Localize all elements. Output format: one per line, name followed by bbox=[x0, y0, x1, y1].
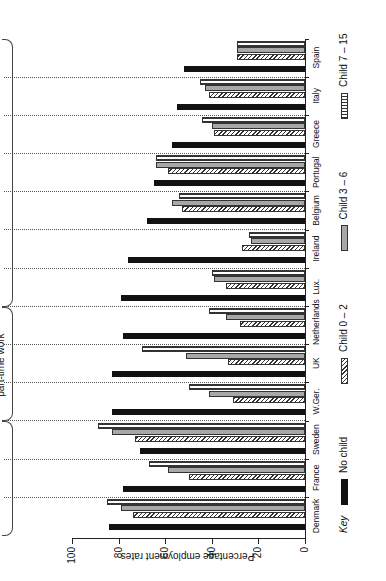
country-bar-group bbox=[0, 383, 305, 419]
group-separator bbox=[4, 191, 305, 192]
bar-child-7-15 bbox=[212, 270, 305, 276]
bar-child-7-15 bbox=[200, 79, 305, 85]
country-label: Netherlands bbox=[311, 305, 321, 345]
bar-no-child bbox=[112, 409, 305, 415]
y-tick bbox=[119, 539, 120, 544]
bar-child-7-15 bbox=[209, 308, 305, 314]
bar-child-0-2 bbox=[226, 283, 305, 289]
bar-no-child bbox=[128, 257, 305, 263]
y-tick bbox=[165, 539, 166, 544]
x-tick bbox=[305, 497, 309, 498]
x-tick bbox=[305, 382, 309, 383]
bar-child-3-6 bbox=[212, 124, 305, 130]
group-separator bbox=[4, 459, 305, 460]
bar-child-0-2 bbox=[228, 359, 305, 365]
group-brace bbox=[2, 39, 13, 306]
bar-child-0-2 bbox=[233, 397, 305, 403]
dotted-swatch-icon bbox=[341, 225, 348, 251]
group-separator bbox=[4, 382, 305, 383]
bar-child-0-2 bbox=[242, 245, 305, 251]
bar-child-0-2 bbox=[214, 130, 305, 136]
legend-item-child-3-6: Child 3 – 6 bbox=[338, 172, 349, 252]
group-separator bbox=[4, 77, 305, 78]
group-separator bbox=[4, 115, 305, 116]
x-tick bbox=[305, 115, 309, 116]
bar-child-7-15 bbox=[237, 41, 305, 47]
x-tick bbox=[305, 230, 309, 231]
country-bar-group bbox=[0, 460, 305, 496]
country-bar-group bbox=[0, 345, 305, 381]
bar-child-3-6 bbox=[172, 200, 305, 206]
x-tick bbox=[305, 39, 309, 40]
group-separator bbox=[4, 153, 305, 154]
bar-child-0-2 bbox=[189, 474, 306, 480]
group-separator bbox=[4, 229, 305, 230]
country-label: Ireland bbox=[311, 229, 321, 269]
country-bar-group bbox=[0, 231, 305, 267]
bar-no-child bbox=[177, 104, 305, 110]
group-separator bbox=[4, 497, 305, 498]
y-tick bbox=[305, 539, 306, 544]
x-tick bbox=[305, 153, 309, 154]
y-tick bbox=[258, 539, 259, 544]
bar-no-child bbox=[112, 371, 305, 377]
bar-no-child bbox=[184, 66, 305, 72]
country-bar-group bbox=[0, 78, 305, 114]
country-label: Italy bbox=[311, 76, 321, 116]
bar-child-7-15 bbox=[142, 346, 305, 352]
country-label: Denmark bbox=[311, 496, 321, 536]
country-bar-group bbox=[0, 40, 305, 76]
country-label: Lux. bbox=[311, 267, 321, 307]
y-tick bbox=[72, 539, 73, 544]
bar-child-3-6 bbox=[209, 391, 305, 397]
bar-no-child bbox=[121, 295, 305, 301]
stripe-swatch-icon bbox=[341, 93, 348, 119]
bar-no-child bbox=[123, 333, 305, 339]
legend-item-no-child: No child bbox=[338, 437, 349, 505]
bar-child-7-15 bbox=[202, 117, 305, 123]
x-tick bbox=[305, 306, 309, 307]
group-separator bbox=[4, 344, 305, 345]
bar-no-child bbox=[109, 524, 305, 530]
bar-child-7-15 bbox=[107, 499, 305, 505]
bar-child-3-6 bbox=[156, 162, 305, 168]
country-bar-group bbox=[0, 307, 305, 343]
country-bar-group bbox=[0, 269, 305, 305]
country-bar-group bbox=[0, 192, 305, 228]
chart-stage: 020406080100 Percentage employment rates… bbox=[0, 0, 386, 581]
legend: Key No child Child 0 – 2 Child 3 – 6 Chi… bbox=[338, 34, 349, 534]
bar-child-0-2 bbox=[133, 512, 305, 518]
bar-child-7-15 bbox=[189, 384, 306, 390]
x-tick bbox=[305, 421, 309, 422]
bar-child-7-15 bbox=[98, 423, 305, 429]
country-label: Spain bbox=[311, 38, 321, 78]
y-tick-label: 100 bbox=[66, 547, 77, 577]
country-label: Sweden bbox=[311, 420, 321, 460]
bar-child-3-6 bbox=[214, 276, 305, 282]
bar-no-child bbox=[172, 142, 305, 148]
bar-child-7-15 bbox=[149, 461, 305, 467]
country-label: Portugal bbox=[311, 152, 321, 192]
group-separator bbox=[4, 420, 305, 421]
group-label: GROUP 2Dual role with homemaker/part-tim… bbox=[0, 309, 6, 422]
country-label: UK bbox=[311, 343, 321, 383]
bar-child-0-2 bbox=[237, 54, 305, 60]
legend-item-child-7-15: Child 7 – 15 bbox=[338, 34, 349, 119]
group-brace bbox=[2, 421, 13, 536]
group-separator bbox=[4, 268, 305, 269]
bar-no-child bbox=[140, 448, 305, 454]
solid-swatch-icon bbox=[341, 479, 348, 505]
bar-child-3-6 bbox=[186, 353, 305, 359]
country-label: Greece bbox=[311, 114, 321, 154]
bar-child-0-2 bbox=[168, 168, 305, 174]
bar-child-3-6 bbox=[237, 47, 305, 53]
bar-child-3-6 bbox=[121, 506, 305, 512]
bar-child-3-6 bbox=[168, 467, 305, 473]
bar-no-child bbox=[123, 486, 305, 492]
hatch-swatch-icon bbox=[341, 358, 348, 384]
country-bar-group bbox=[0, 498, 305, 534]
y-axis bbox=[72, 538, 305, 539]
country-label: W.Ger. bbox=[311, 381, 321, 421]
bar-child-3-6 bbox=[226, 315, 305, 321]
bar-child-3-6 bbox=[112, 429, 305, 435]
